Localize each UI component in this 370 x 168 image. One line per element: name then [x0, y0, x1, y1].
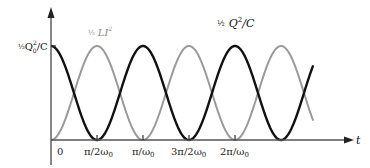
- capacitor-energy-curve: [51, 46, 313, 140]
- x-axis-arrow-icon: [344, 137, 354, 144]
- tick-label-pi: π/ω0: [132, 146, 155, 159]
- tick-label-2pi: 2π/ω0: [220, 146, 249, 159]
- inductor-energy-curve: [51, 46, 313, 140]
- tick-label-3pi-half: 3π/2ω0: [171, 146, 206, 159]
- y-axis-arrow-icon: [48, 7, 55, 18]
- tick-label-0: 0: [57, 146, 63, 157]
- x-ticks: [51, 46, 235, 140]
- x-axis-label: t: [356, 134, 361, 147]
- tick-label-pi-half: π/2ω0: [84, 146, 113, 159]
- capacitor-energy-label: ½Q2/C: [217, 16, 255, 30]
- energy-oscillation-chart: 0 π/2ω0 π/ω0 3π/2ω0 2π/ω0 t ½Q20/C ½LI2 …: [0, 0, 370, 168]
- inductor-energy-label: ½LI2: [88, 25, 112, 38]
- y-max-label: ½Q20/C: [18, 39, 48, 54]
